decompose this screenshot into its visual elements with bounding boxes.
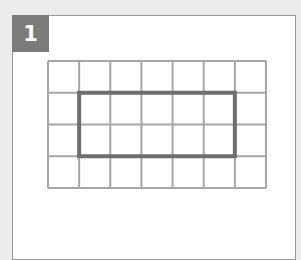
grid-diagram <box>0 0 301 254</box>
